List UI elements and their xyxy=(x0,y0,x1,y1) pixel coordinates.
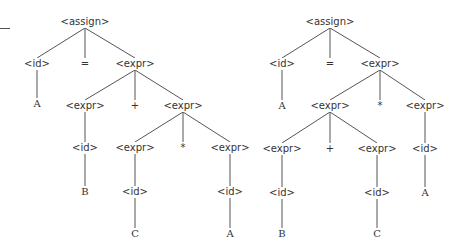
nonterminal-node: <id> xyxy=(23,58,51,70)
nonterminal-node: = xyxy=(80,58,90,70)
nonterminal-node: <expr> xyxy=(261,143,302,155)
tree-edge xyxy=(330,70,380,100)
nonterminal-node: <id> xyxy=(268,187,296,199)
nonterminal-node: <expr> xyxy=(356,143,397,155)
terminal-node: B xyxy=(80,186,89,198)
nonterminal-node: <expr> xyxy=(114,142,155,154)
nonterminal-node: <expr> xyxy=(359,58,400,70)
tree-edge xyxy=(330,28,380,58)
nonterminal-node: <expr> xyxy=(114,58,155,70)
nonterminal-node: * xyxy=(377,100,384,112)
nonterminal-node: <expr> xyxy=(64,100,105,112)
tree-edge xyxy=(282,28,330,58)
nonterminal-node: + xyxy=(130,100,140,112)
nonterminal-node: <assign> xyxy=(60,16,111,28)
nonterminal-node: <id> xyxy=(268,58,296,70)
terminal-node: B xyxy=(277,228,286,240)
tree-edge xyxy=(85,70,135,100)
terminal-node: A xyxy=(420,187,429,199)
parse-tree-diagram: <assign><id>=<expr>A<expr>+<expr><id><ex… xyxy=(0,0,460,251)
nonterminal-node: <id> xyxy=(121,186,149,198)
terminal-node: A xyxy=(277,100,286,112)
tree-edge xyxy=(135,70,183,100)
terminal-node: A xyxy=(225,228,234,240)
tree-edge xyxy=(183,112,230,142)
nonterminal-node: <id> xyxy=(363,187,391,199)
nonterminal-node: <expr> xyxy=(209,142,250,154)
terminal-node: A xyxy=(32,98,41,110)
nonterminal-node: <assign> xyxy=(305,16,356,28)
tree-edge xyxy=(330,112,377,143)
tree-edge xyxy=(282,112,330,143)
nonterminal-node: + xyxy=(325,143,335,155)
tree-edge xyxy=(85,28,135,58)
tree-edge xyxy=(380,70,425,100)
nonterminal-node: <expr> xyxy=(404,100,445,112)
nonterminal-node: <id> xyxy=(71,142,99,154)
nonterminal-node: * xyxy=(180,142,187,154)
terminal-node: C xyxy=(130,228,140,240)
tree-edge xyxy=(135,112,183,142)
nonterminal-node: <id> xyxy=(216,186,244,198)
nonterminal-node: <expr> xyxy=(309,100,350,112)
nonterminal-node: = xyxy=(325,58,335,70)
terminal-node: C xyxy=(372,228,382,240)
tree-edge xyxy=(37,28,85,58)
tree-edges xyxy=(0,0,460,251)
nonterminal-node: <id> xyxy=(411,143,439,155)
nonterminal-node: <expr> xyxy=(162,100,203,112)
